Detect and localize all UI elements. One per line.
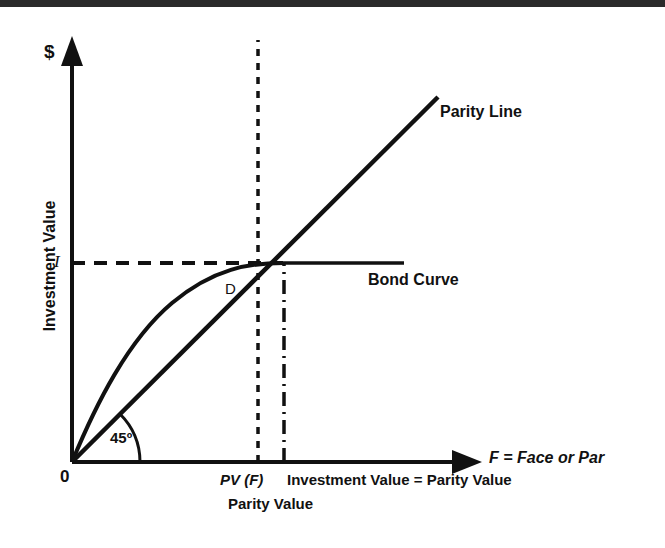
pv-f-label: PV (F) xyxy=(220,472,263,487)
figure-root: $ Investment Value I 0 45º D Parity Line… xyxy=(0,0,665,548)
angle-label: 45º xyxy=(110,430,132,445)
x-axis-title: F = Face or Par xyxy=(489,450,604,466)
parity-value-label: Parity Value xyxy=(228,496,313,511)
investment-equals-parity-label: Investment Value = Parity Value xyxy=(287,472,512,487)
y-axis-currency-symbol: $ xyxy=(44,42,55,61)
premium-gap-label: D xyxy=(225,281,236,296)
y-axis-arrowhead xyxy=(61,36,83,66)
investment-value-marker: I xyxy=(54,253,60,270)
scan-border-top xyxy=(0,0,665,7)
parity-line-label: Parity Line xyxy=(440,104,522,120)
origin-label: 0 xyxy=(60,468,69,485)
scan-border-gap xyxy=(0,7,665,10)
bond-curve-label: Bond Curve xyxy=(368,272,459,288)
